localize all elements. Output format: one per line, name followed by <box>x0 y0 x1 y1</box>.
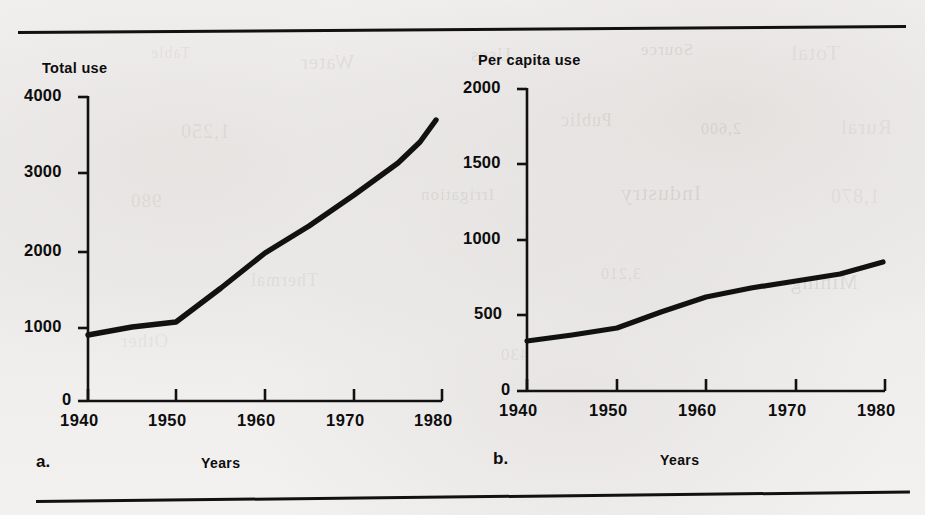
panel-a-xtick-label-1950: 1950 <box>148 411 187 430</box>
panel-a-xtick-label-1940: 1940 <box>60 411 99 430</box>
panel-a-ytick-label-0: 0 <box>62 390 71 409</box>
panel-b-ytick-label-500: 500 <box>474 304 502 323</box>
bleed-through-word: 430 <box>500 345 529 365</box>
panel-b-axes <box>517 88 885 391</box>
bleed-through-word: Source <box>640 40 693 60</box>
bleed-through-word: Table <box>150 44 190 62</box>
panel-b-ytick-label-0: 0 <box>501 380 510 399</box>
panel-b-xtick-label-1980: 1980 <box>857 401 896 420</box>
bleed-through-word: Total <box>790 40 840 66</box>
panel-b-xtick-label-1940: 1940 <box>499 401 538 420</box>
panel-a-ytick-label-3000: 3000 <box>24 162 62 181</box>
panel-a-y-axis-title: Total use <box>42 60 107 76</box>
bleed-through-word: Public <box>560 110 612 131</box>
bleed-through-word: Mining <box>790 270 858 295</box>
panel-b-y-axis-title: Per capita use <box>478 52 581 68</box>
bleed-through-word: 1,250 <box>180 120 230 143</box>
panel-a-ytick-label-4000: 4000 <box>24 86 62 105</box>
panel-a-data-line <box>88 120 436 335</box>
top-rule <box>18 25 906 34</box>
panel-b-data-line <box>527 262 883 341</box>
bleed-through-word: Thermal <box>250 270 318 291</box>
panel-b-ytick-label-2000: 2000 <box>463 78 501 97</box>
panel-b-xtick-label-1960: 1960 <box>678 401 717 420</box>
bleed-through-word: 1,870 <box>830 185 880 208</box>
panel-a-xtick-label-1980: 1980 <box>414 411 453 430</box>
panel-a-x-caption: Years <box>201 455 240 471</box>
panel-b-ytick-label-1000: 1000 <box>463 229 501 248</box>
panel-a-axes <box>78 96 442 401</box>
figure-page: TableWaterUsesSourceTotal1,250Public2,60… <box>0 0 925 515</box>
bleed-through-word: Other <box>120 330 168 352</box>
bleed-through-word: Industry <box>620 180 701 206</box>
panel-a-letter: a. <box>36 452 50 472</box>
panel-b-x-caption: Years <box>660 452 699 468</box>
panel-b-letter: b. <box>493 449 508 469</box>
bleed-through-word: Water <box>300 50 355 75</box>
panel-b-ytick-label-1500: 1500 <box>463 153 501 172</box>
bleed-through-word: 2,600 <box>700 120 741 138</box>
panel-b-xtick-label-1970: 1970 <box>768 401 807 420</box>
bleed-through-word: 980 <box>130 190 162 212</box>
bleed-through-word: Irrigation <box>420 185 494 205</box>
panel-a-xtick-label-1970: 1970 <box>326 411 365 430</box>
panel-a-xtick-label-1960: 1960 <box>237 411 276 430</box>
panel-a-ytick-label-2000: 2000 <box>24 241 62 260</box>
bleed-through-word: Rural <box>840 115 892 140</box>
panel-a-ytick-label-1000: 1000 <box>24 317 62 336</box>
bleed-through-word: 3,210 <box>600 265 641 283</box>
bottom-rule <box>36 491 910 503</box>
panel-b-xtick-label-1950: 1950 <box>589 401 628 420</box>
